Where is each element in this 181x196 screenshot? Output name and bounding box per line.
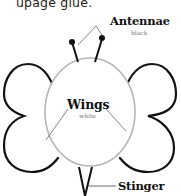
bee-diagram: upage glue. Antennae black Wings white S… — [0, 0, 181, 196]
antennae-color-note: black — [131, 29, 147, 36]
stinger — [79, 167, 92, 196]
antenna-tip-right — [99, 35, 105, 41]
antennae-label: Antennae — [110, 14, 170, 28]
wings-label: Wings — [67, 97, 109, 112]
antennae-leader-line — [78, 26, 102, 45]
stinger-label: Stinger — [118, 179, 164, 193]
antenna-tip-left — [69, 39, 75, 45]
wings-color-note: white — [79, 112, 96, 119]
caption-text: upage glue. — [16, 0, 92, 10]
